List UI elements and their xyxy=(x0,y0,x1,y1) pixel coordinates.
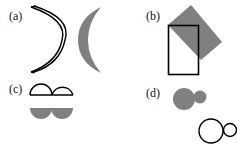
panel-a-outlined-crescent xyxy=(31,6,66,73)
panel-c-outlined-semicircles xyxy=(30,84,73,95)
panel-b-rotated-filled-rectangle xyxy=(168,5,222,60)
panel-d-filled-circles xyxy=(173,88,207,110)
panel-c-filled-semicircles xyxy=(30,108,73,119)
diagram-canvas xyxy=(0,0,237,145)
panel-a-filled-crescent xyxy=(78,7,101,73)
panel-d-outlined-circles xyxy=(199,119,237,143)
